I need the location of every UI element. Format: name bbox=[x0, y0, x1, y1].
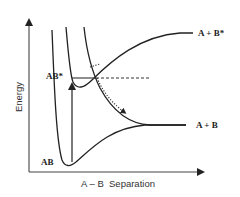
predissociation-dotted-arrow bbox=[97, 78, 124, 112]
energy-diagram: A + B* A + B AB* AB Energy A – B Separat… bbox=[0, 0, 240, 197]
y-axis-label: Energy bbox=[13, 82, 24, 112]
repulsive-state-curve bbox=[84, 27, 186, 125]
asymptote-label-ground: A + B bbox=[196, 120, 218, 130]
ground-state-label: AB bbox=[41, 157, 54, 167]
excited-state-label: AB* bbox=[46, 71, 64, 81]
x-axis-label: A – B Separation bbox=[81, 178, 155, 189]
asymptote-label-excited: A + B* bbox=[198, 28, 225, 38]
